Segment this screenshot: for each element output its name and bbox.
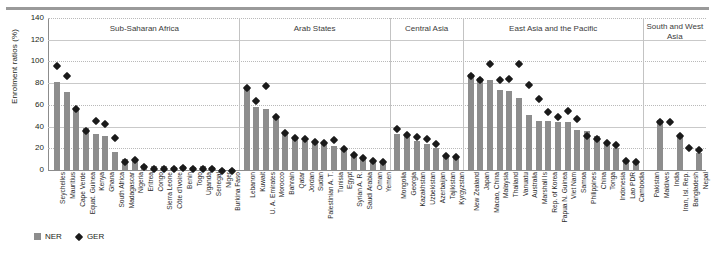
marker-ger — [330, 136, 338, 144]
x-tick-label: Rep. of Korea — [551, 172, 558, 213]
bar-ner — [424, 144, 430, 170]
square-marker-icon — [34, 233, 41, 240]
bar-ner — [555, 122, 561, 170]
x-tick-label: Togo — [196, 172, 203, 186]
bar-ner — [536, 121, 542, 170]
marker-ger — [92, 117, 100, 125]
bar-ner — [312, 143, 318, 170]
bar-ner — [657, 120, 663, 170]
bar-ner — [73, 108, 79, 170]
bar-ner — [696, 153, 702, 170]
region-separator-0 — [239, 18, 240, 170]
x-tick-label: Bahrain — [288, 172, 295, 195]
x-tick-label: Macao, China — [493, 172, 500, 213]
x-tick-label: Viet Nam — [570, 172, 577, 199]
bar-ner — [253, 107, 259, 170]
bar-ner — [433, 148, 439, 170]
x-tick-label: Ghana — [108, 172, 115, 192]
marker-ger — [554, 112, 562, 120]
x-tick-label: Nigeria — [137, 172, 144, 193]
gridline-100 — [48, 61, 706, 62]
bar-ner — [321, 143, 327, 170]
x-tick-label: Tonga — [609, 172, 616, 190]
bar-ner — [404, 135, 410, 170]
x-tick-label: Azerbaijan — [439, 172, 446, 203]
bar-ner — [244, 89, 250, 170]
marker-ger — [62, 72, 70, 80]
x-tick-label: Marshall Is — [541, 172, 548, 204]
bar-ner — [93, 134, 99, 170]
x-tick-label: New Zealand — [473, 172, 480, 211]
marker-ger — [111, 134, 119, 142]
region-title-0: Sub-Saharan Africa — [52, 24, 237, 34]
marker-ger — [432, 139, 440, 147]
y-tick-80: 80 — [8, 78, 44, 87]
marker-ger — [53, 61, 61, 69]
marker-ger — [666, 118, 674, 126]
x-tick-label: Senegal — [215, 172, 222, 196]
x-tick-label: Philippines — [590, 172, 597, 204]
bar-ner — [497, 90, 503, 170]
bar-ner — [613, 148, 619, 170]
x-tick-label: Bangladesh — [692, 172, 699, 207]
x-tick-label: Eritrea — [147, 172, 154, 191]
x-tick-label: Kuwait — [259, 172, 266, 192]
marker-ger — [393, 124, 401, 132]
bar-ner — [282, 132, 288, 170]
y-tick-40: 40 — [8, 122, 44, 131]
x-tick-label: Samoa — [580, 172, 587, 193]
chart-figure: Enrolment ratios (%) 020406080100120140 … — [0, 0, 715, 261]
x-tick-label: Malaysia — [502, 172, 509, 198]
x-tick-label: Cape Verde — [79, 172, 86, 207]
bar-ner — [273, 116, 279, 170]
y-tick-60: 60 — [8, 100, 44, 109]
region-separator-1 — [390, 18, 391, 170]
y-tick-0: 0 — [8, 165, 44, 174]
x-tick-label: Thailand — [512, 172, 519, 197]
bar-ner — [54, 82, 60, 170]
x-tick-label: Uzbekistan — [429, 172, 436, 205]
x-tick-label: Lao PDR — [629, 172, 636, 199]
x-tick-label: Cambodia — [638, 172, 645, 202]
diamond-marker-icon — [75, 233, 83, 241]
x-tick-label: Tunisia — [337, 172, 344, 193]
region-title-2: Central Asia — [393, 24, 461, 34]
x-tick-label: Congo — [157, 172, 164, 191]
region-title-4: South and West Asia — [646, 22, 704, 41]
gridline-40 — [48, 127, 706, 128]
x-tick-label: Syrian A. R. — [356, 172, 363, 207]
bar-ner — [331, 146, 337, 170]
marker-ger — [544, 108, 552, 116]
top-divider-rule — [6, 7, 709, 10]
x-tick-label: Japan — [483, 172, 490, 190]
y-tick-140: 140 — [8, 13, 44, 22]
x-tick-label: Burkina Faso — [234, 172, 241, 211]
bar-ner — [468, 74, 474, 170]
x-tick-label: Mongolia — [400, 172, 407, 199]
x-tick-label: Kyrgyzstan — [458, 172, 465, 205]
region-separator-2 — [463, 18, 464, 170]
bar-ner — [263, 109, 269, 170]
gridline-60 — [48, 105, 706, 106]
marker-ger — [422, 135, 430, 143]
bar-ner — [112, 152, 118, 170]
region-separator-3 — [643, 18, 644, 170]
region-title-3: East Asia and the Pacific — [466, 24, 641, 34]
bar-ner — [516, 98, 522, 170]
x-tick-label: Tajikistan — [449, 172, 456, 199]
x-tick-label: Equat. Guinea — [89, 172, 96, 214]
x-tick-label: Indonesia — [619, 172, 626, 201]
x-tick-label: Oman — [376, 172, 383, 190]
bar-ner — [302, 141, 308, 170]
x-tick-label: Saudi Arabia — [366, 172, 373, 209]
x-tick-label: Iran, Isl. Rep. — [682, 172, 689, 211]
bar-ner — [64, 92, 70, 170]
x-tick-label: Kazakhstan — [419, 172, 426, 206]
x-tick-label: Sudan — [317, 172, 324, 191]
marker-ger — [534, 95, 542, 103]
bar-ner — [526, 115, 532, 170]
chart-legend: NER GER — [34, 232, 104, 241]
gridline-120 — [48, 40, 706, 41]
x-tick-label: Palestinian A. T. — [327, 172, 334, 219]
plot-area — [48, 18, 706, 170]
